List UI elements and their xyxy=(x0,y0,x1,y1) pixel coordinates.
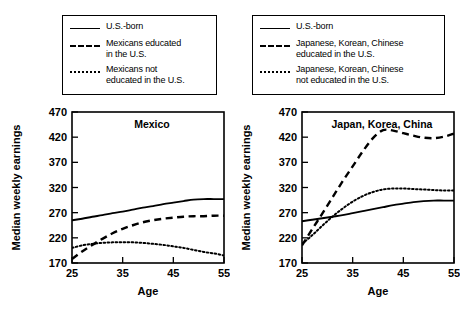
legend-item-label: Japanese, Korean, Chinese educated in th… xyxy=(296,38,403,59)
legend-item-label: U.S.-born xyxy=(296,21,333,32)
y-tick-label: 420 xyxy=(279,131,297,143)
panel-title: Mexico xyxy=(134,118,170,130)
line-style-solid-icon xyxy=(260,22,290,33)
y-tick-label: 370 xyxy=(279,156,297,168)
x-tick-label: 25 xyxy=(296,267,308,279)
x-tick-label: 35 xyxy=(117,267,129,279)
plot-area-mexico: 17022027032037042047025354555AgeMedian w… xyxy=(0,100,230,311)
y-tick-label: 270 xyxy=(49,207,67,219)
y-tick-label: 420 xyxy=(49,131,67,143)
y-tick-label: 170 xyxy=(279,257,297,269)
figure-root: U.S.-born Mexicans educated in the U.S. … xyxy=(0,0,460,311)
x-axis-title: Age xyxy=(138,285,159,297)
legend-item: Japanese, Korean, Chinese not educated i… xyxy=(260,64,438,85)
y-tick-label: 220 xyxy=(279,232,297,244)
series-line xyxy=(302,130,454,246)
x-tick-label: 45 xyxy=(167,267,179,279)
y-tick-label: 320 xyxy=(279,182,297,194)
legend-item-label: Mexicans not educated in the U.S. xyxy=(106,64,185,85)
y-tick-label: 220 xyxy=(49,232,67,244)
line-style-dashed-icon xyxy=(70,39,100,50)
legend-mexico: U.S.-born Mexicans educated in the U.S. … xyxy=(62,15,217,95)
plot-area-japan-korea-china: 17022027032037042047025354555AgeMedian w… xyxy=(230,100,460,311)
legend-item-label: U.S.-born xyxy=(106,21,143,32)
line-style-dashed-icon xyxy=(260,39,290,50)
x-tick-label: 55 xyxy=(218,267,230,279)
y-tick-label: 370 xyxy=(49,156,67,168)
chart-svg-mexico: 17022027032037042047025354555AgeMedian w… xyxy=(0,100,230,311)
legend-japan-korea-china: U.S.-born Japanese, Korean, Chinese educ… xyxy=(252,15,445,95)
series-line xyxy=(72,216,224,259)
line-style-dotted-icon xyxy=(260,65,290,76)
line-style-solid-icon xyxy=(70,22,100,33)
panel-japan-korea-china: U.S.-born Japanese, Korean, Chinese educ… xyxy=(230,0,460,311)
x-tick-label: 25 xyxy=(66,267,78,279)
y-tick-label: 470 xyxy=(279,106,297,118)
chart-svg-japan-korea-china: 17022027032037042047025354555AgeMedian w… xyxy=(230,100,460,311)
panel-title: Japan, Korea, China xyxy=(332,118,433,130)
y-tick-label: 470 xyxy=(49,106,67,118)
y-axis-title: Median weekly earnings xyxy=(10,125,22,251)
x-tick-label: 45 xyxy=(397,267,409,279)
legend-item: Japanese, Korean, Chinese educated in th… xyxy=(260,38,438,59)
legend-item-label: Japanese, Korean, Chinese not educated i… xyxy=(296,64,403,85)
legend-item: U.S.-born xyxy=(70,21,210,33)
panel-mexico: U.S.-born Mexicans educated in the U.S. … xyxy=(0,0,230,311)
series-line xyxy=(302,188,454,243)
y-tick-label: 270 xyxy=(279,207,297,219)
legend-item: U.S.-born xyxy=(260,21,438,33)
plot-frame xyxy=(302,112,454,263)
y-tick-label: 320 xyxy=(49,182,67,194)
legend-item: Mexicans not educated in the U.S. xyxy=(70,64,210,85)
x-tick-label: 55 xyxy=(448,267,460,279)
y-axis-title: Median weekly earnings xyxy=(240,125,252,251)
legend-item: Mexicans educated in the U.S. xyxy=(70,38,210,59)
x-axis-title: Age xyxy=(368,285,389,297)
x-tick-label: 35 xyxy=(347,267,359,279)
legend-item-label: Mexicans educated in the U.S. xyxy=(106,38,181,59)
plot-frame xyxy=(72,112,224,263)
y-tick-label: 170 xyxy=(49,257,67,269)
line-style-dotted-icon xyxy=(70,65,100,76)
